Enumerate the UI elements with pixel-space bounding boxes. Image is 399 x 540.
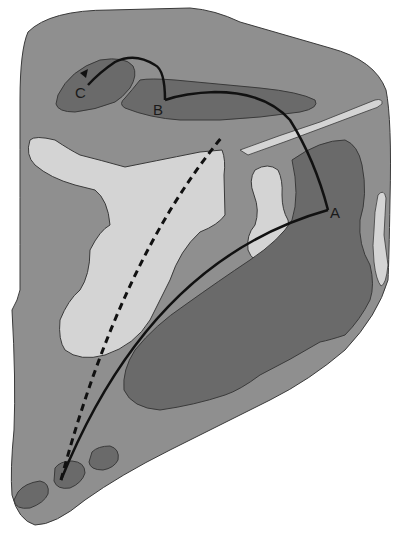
label-a: A — [330, 204, 340, 221]
anatomical-diagram: A B C — [0, 0, 399, 540]
diagram-canvas: A B C — [0, 0, 399, 540]
label-b: B — [153, 101, 163, 118]
label-c: C — [75, 84, 86, 101]
